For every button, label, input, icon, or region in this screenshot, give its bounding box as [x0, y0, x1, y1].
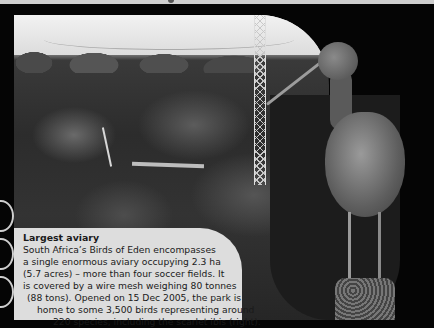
ibis-body: [325, 112, 405, 217]
scarlet-ibis-image: [300, 42, 410, 320]
tree-stump-perch: [335, 278, 395, 320]
caption-line: 220 species, including the scarlet ibis …: [23, 316, 253, 328]
caption-line: South Africa’s Birds of Eden encompasses: [23, 244, 253, 256]
caption-line: a single enormous aviary occupying 2.3 h…: [23, 256, 253, 268]
caption-line: is covered by a wire mesh weighing 80 to…: [23, 280, 253, 292]
caption-text: Largest aviary South Africa’s Birds of E…: [23, 232, 253, 328]
ibis-leg: [348, 212, 351, 282]
ibis-head: [318, 42, 358, 80]
side-ring-icon: [0, 238, 14, 270]
caption-title: Largest aviary: [23, 232, 253, 244]
side-ring-icon: [0, 276, 14, 308]
lattice-tower: [254, 15, 266, 185]
top-page-strip: [0, 0, 434, 4]
caption-line: (88 tons). Opened on 15 Dec 2005, the pa…: [23, 292, 253, 304]
caption-line: (5.7 acres) – more than four soccer fiel…: [23, 268, 253, 280]
walkway-pole: [102, 127, 112, 167]
caption-line: home to some 3,500 birds representing ar…: [23, 304, 253, 316]
forest-canopy: [14, 43, 329, 73]
side-ring-icon: [0, 200, 14, 232]
suspension-walkway: [132, 162, 204, 169]
